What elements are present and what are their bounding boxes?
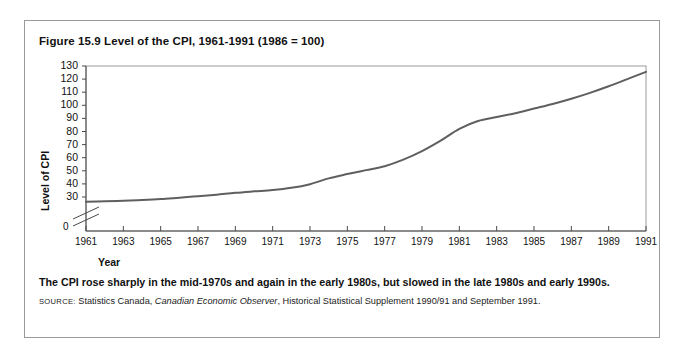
y-tick-label: 130 [52, 59, 78, 71]
source-text-part2: , Historical Statistical Supplement 1990… [277, 296, 540, 306]
x-tick-label: 1971 [253, 236, 293, 247]
y-tick-label: 120 [52, 72, 78, 84]
y-tick-label: 30 [52, 190, 78, 202]
cpi-data-line [86, 72, 646, 202]
y-tick-label: 50 [52, 164, 78, 176]
x-tick-label: 1981 [439, 236, 479, 247]
y-tick-label: 80 [52, 125, 78, 137]
x-tick-label: 1985 [514, 236, 554, 247]
x-tick-label: 1973 [290, 236, 330, 247]
figure-container: Figure 15.9 Level of the CPI, 1961-1991 … [24, 20, 660, 338]
y-tick-label: 110 [52, 85, 78, 97]
x-tick-label: 1979 [402, 236, 442, 247]
source-publication: Canadian Economic Observer [155, 296, 278, 306]
x-tick-label: 1963 [103, 236, 143, 247]
x-tick-label: 1967 [178, 236, 218, 247]
y-tick-label: 90 [52, 111, 78, 123]
figure-caption: The CPI rose sharply in the mid-1970s an… [39, 276, 639, 289]
x-tick-label: 1991 [626, 236, 666, 247]
plot-area: Level of CPI Year 0 13012011010090807060… [25, 21, 661, 339]
origin-label: 0 [63, 221, 69, 232]
x-tick-label: 1983 [477, 236, 517, 247]
x-tick-label: 1961 [66, 236, 106, 247]
x-tick-label: 1987 [551, 236, 591, 247]
x-tick-label: 1989 [589, 236, 629, 247]
source-label: SOURCE: [39, 297, 76, 306]
y-tick-label: 100 [52, 98, 78, 110]
y-tick-label: 70 [52, 138, 78, 150]
x-tick-label: 1975 [327, 236, 367, 247]
x-tick-label: 1969 [215, 236, 255, 247]
figure-source: SOURCE: Statistics Canada, Canadian Econ… [39, 295, 639, 308]
x-axis-title: Year [98, 256, 120, 268]
source-text-part1: Statistics Canada, [76, 296, 155, 306]
cpi-line-chart [25, 21, 661, 339]
x-tick-label: 1977 [365, 236, 405, 247]
y-tick-label: 40 [52, 177, 78, 189]
x-tick-label: 1965 [141, 236, 181, 247]
y-tick-label: 60 [52, 151, 78, 163]
